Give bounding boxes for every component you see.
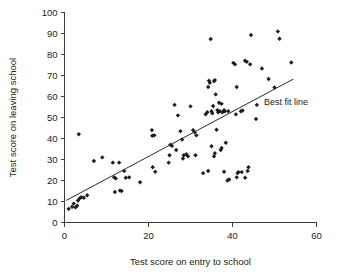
y-tick-label-90: 90 <box>47 28 58 39</box>
data-point <box>172 103 176 107</box>
y-axis-title: Test score on leaving school <box>7 58 18 177</box>
axes <box>65 13 317 223</box>
data-point <box>255 103 259 107</box>
data-point <box>117 160 121 164</box>
data-point <box>245 169 249 173</box>
x-axis-title: Test score on entry to school <box>130 256 251 267</box>
data-point <box>193 153 197 157</box>
best-fit-line-label: Best fit line <box>264 97 308 107</box>
data-point <box>67 207 71 211</box>
data-point <box>178 129 182 133</box>
data-point <box>260 66 264 70</box>
plot-area: 01020304050607080901000204060 Best fit l… <box>0 0 349 273</box>
data-point <box>234 112 238 116</box>
data-point <box>127 175 131 179</box>
data-point <box>153 169 157 173</box>
data-point <box>85 193 89 197</box>
data-point <box>138 180 142 184</box>
data-point <box>92 159 96 163</box>
data-point <box>213 151 217 155</box>
data-point <box>77 132 81 136</box>
data-point <box>211 104 215 108</box>
data-point <box>235 85 239 89</box>
data-point <box>224 141 228 145</box>
data-point <box>254 117 258 121</box>
y-tick-label-30: 30 <box>47 154 58 165</box>
data-points <box>67 29 294 211</box>
data-point <box>100 155 104 159</box>
data-point <box>150 128 154 132</box>
data-point <box>167 153 171 157</box>
y-tick-label-70: 70 <box>47 70 58 81</box>
data-point <box>214 92 218 96</box>
y-tick-label-100: 100 <box>42 7 58 18</box>
data-point <box>124 176 128 180</box>
data-point <box>277 37 281 41</box>
y-tick-label-60: 60 <box>47 91 58 102</box>
annotations: Best fit line <box>264 97 308 107</box>
data-point <box>209 144 213 148</box>
x-tick-label-40: 40 <box>227 230 238 241</box>
x-tick-label-60: 60 <box>311 230 322 241</box>
data-point <box>240 170 244 174</box>
data-point <box>266 77 270 81</box>
data-point <box>166 160 170 164</box>
data-point <box>176 113 180 117</box>
axis-titles: Test score on entry to schoolTest score … <box>7 58 251 267</box>
data-point <box>248 62 252 66</box>
data-point <box>276 29 280 33</box>
data-point <box>289 60 293 64</box>
best-fit-line <box>66 79 293 200</box>
scatter-chart: 01020304050607080901000204060 Best fit l… <box>0 0 349 273</box>
data-point <box>246 165 250 169</box>
y-tick-label-20: 20 <box>47 175 58 186</box>
data-point <box>151 165 155 169</box>
data-point <box>212 154 216 158</box>
best-fit-line-path <box>66 79 293 200</box>
tick-labels: 01020304050607080901000204060 <box>42 7 322 241</box>
y-tick-label-50: 50 <box>47 112 58 123</box>
data-point <box>208 37 212 41</box>
x-tick-label-0: 0 <box>62 230 67 241</box>
data-point <box>174 148 178 152</box>
data-point <box>206 85 210 89</box>
data-point <box>201 171 205 175</box>
data-point <box>188 104 192 108</box>
tick-marks <box>61 13 317 227</box>
data-point <box>249 33 253 37</box>
x-tick-label-20: 20 <box>143 230 154 241</box>
data-point <box>243 176 247 180</box>
data-point <box>235 175 239 179</box>
y-tick-label-40: 40 <box>47 133 58 144</box>
y-tick-label-0: 0 <box>52 217 57 228</box>
data-point <box>214 127 218 131</box>
data-point <box>111 160 115 164</box>
data-point <box>222 169 226 173</box>
data-point <box>113 190 117 194</box>
y-tick-label-80: 80 <box>47 49 58 60</box>
y-tick-label-10: 10 <box>47 196 58 207</box>
data-point <box>181 156 185 160</box>
data-point <box>206 169 210 173</box>
